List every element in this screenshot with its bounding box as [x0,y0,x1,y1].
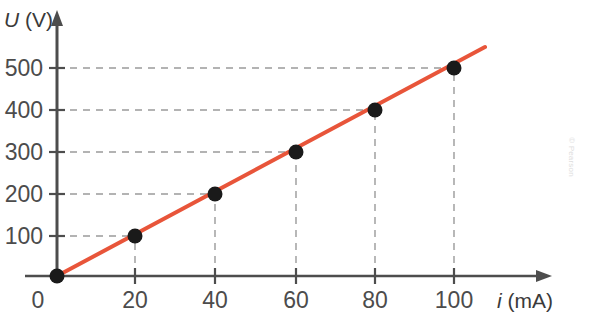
x-tick-label-40: 40 [202,287,228,313]
y-tick-label-100: 100 [5,223,43,249]
svg-text:i (mA): i (mA) [497,289,553,312]
data-point-60-300 [289,145,304,160]
y-axis-title: U (V) [4,8,53,31]
y-tick-label-200: 200 [5,181,43,207]
data-point-0-0 [50,269,65,284]
chart-container: 500 400 300 200 100 0 20 40 60 80 100 U … [0,0,594,313]
y-tick-label-300: 300 [5,139,43,165]
x-tick-label-20: 20 [122,287,148,313]
vertical-gridlines [135,68,454,276]
origin-label: 0 [32,287,45,313]
y-axis-tick-labels: 500 400 300 200 100 [5,55,43,249]
y-axis-title-unit: (V) [25,8,53,31]
x-tick-label-60: 60 [283,287,309,313]
data-point-20-100 [128,229,143,244]
data-point-40-200 [208,187,223,202]
data-line-series-0 [57,47,485,276]
data-point-80-400 [368,103,383,118]
x-tick-label-100: 100 [435,287,473,313]
x-axis [25,270,552,282]
x-axis-title-unit: (mA) [508,289,554,312]
svg-text:U (V): U (V) [4,8,53,31]
x-axis-tick-labels: 20 40 60 80 100 [122,287,473,313]
data-point-100-500 [447,61,462,76]
voltage-current-line-chart: 500 400 300 200 100 0 20 40 60 80 100 U … [0,0,594,313]
y-tick-label-400: 400 [5,97,43,123]
y-tick-label-500: 500 [5,55,43,81]
x-axis-title: i (mA) [497,289,553,312]
x-tick-label-80: 80 [362,287,388,313]
y-axis-title-symbol: U [4,8,20,31]
x-axis-arrowhead [536,270,552,282]
